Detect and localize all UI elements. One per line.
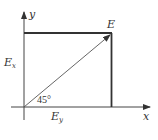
angle-label: 45° — [37, 94, 51, 105]
vector-diagram: y x E Ex Ey 45° — [0, 0, 158, 140]
vector-e-label: E — [106, 18, 115, 31]
component-vertical-label: Ex — [3, 56, 16, 70]
y-axis-label: y — [28, 8, 36, 21]
x-axis-label: x — [143, 110, 150, 123]
component-horizontal-label: Ey — [50, 110, 64, 124]
